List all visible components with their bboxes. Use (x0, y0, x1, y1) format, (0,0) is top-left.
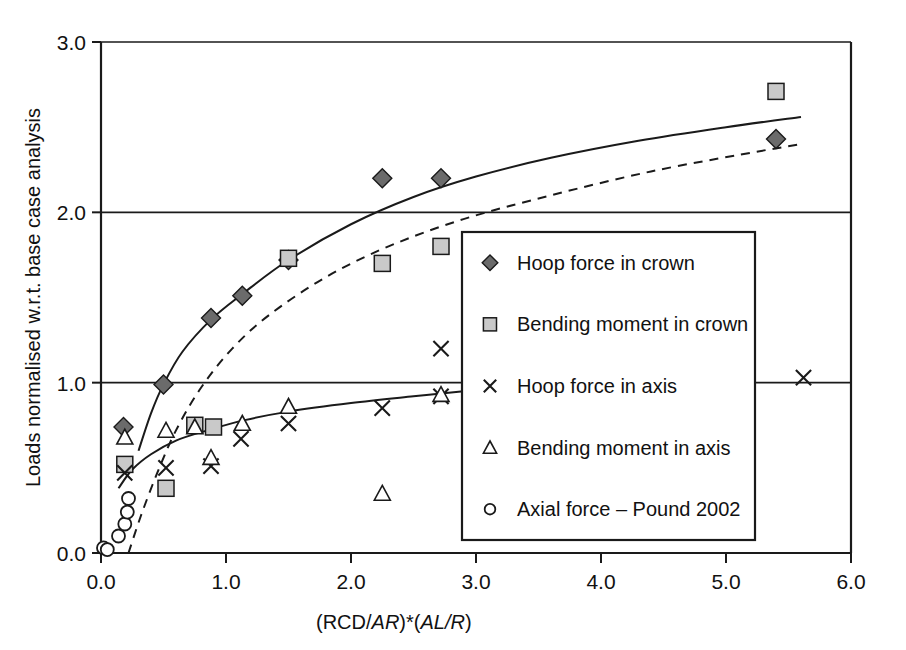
data-point-square (206, 419, 222, 435)
legend-label: Axial force – Pound 2002 (517, 498, 741, 520)
data-point-cross (233, 431, 248, 446)
y-tick-label: 2.0 (57, 201, 86, 224)
x-tick-labels: 0.01.02.03.04.05.06.0 (86, 570, 865, 593)
x-tick-label: 3.0 (461, 570, 490, 593)
data-point-diamond (202, 308, 221, 327)
data-point-circle (118, 518, 131, 531)
data-point-cross (375, 401, 390, 416)
x-tick-label: 1.0 (211, 570, 240, 593)
x-axis-title: (RCD/AR)*(AL/R) (316, 611, 472, 633)
legend-item[interactable]: Bending moment in crown (483, 313, 748, 335)
legend-marker-square (483, 318, 496, 331)
legend-item[interactable]: Axial force – Pound 2002 (485, 498, 741, 520)
data-point-triangle (281, 399, 297, 414)
legend-marker-circle (485, 504, 496, 515)
data-point-square (374, 255, 390, 271)
data-point-square (158, 480, 174, 496)
legend-item[interactable]: Bending moment in axis (483, 437, 730, 459)
x-tick-label: 4.0 (586, 570, 615, 593)
data-point-diamond (373, 169, 392, 188)
legend-label: Bending moment in axis (517, 437, 730, 459)
data-point-circle (121, 506, 134, 519)
data-point-square (433, 238, 449, 254)
x-tick-label: 6.0 (836, 570, 865, 593)
data-point-triangle (374, 485, 390, 500)
y-tick-label: 1.0 (57, 372, 86, 395)
x-tick-label: 0.0 (86, 570, 115, 593)
data-point-diamond (154, 375, 173, 394)
y-tick-label: 3.0 (57, 31, 86, 54)
series-circle (97, 492, 135, 556)
data-point-circle (101, 543, 114, 556)
data-point-cross (158, 460, 173, 475)
data-point-triangle (203, 450, 219, 465)
data-point-circle (122, 492, 135, 505)
legend-label: Hoop force in axis (517, 375, 677, 397)
x-tick-label: 5.0 (711, 570, 740, 593)
data-point-diamond (767, 130, 786, 149)
y-tick-label: 0.0 (57, 542, 86, 565)
legend-label: Hoop force in crown (517, 252, 695, 274)
x-tick-label: 2.0 (336, 570, 365, 593)
scatter-plot-canvas: 0.01.02.03.00.01.02.03.04.05.06.0Loads n… (0, 0, 906, 650)
y-tick-labels: 0.01.02.03.0 (57, 31, 86, 565)
chart-figure: 0.01.02.03.00.01.02.03.04.05.06.0Loads n… (0, 0, 906, 650)
data-point-circle (112, 530, 125, 543)
data-point-cross (281, 416, 296, 431)
y-axis-title: Loads normalised w.r.t. base case analys… (22, 108, 44, 487)
data-point-square (768, 83, 784, 99)
data-point-triangle (158, 422, 174, 437)
legend-label: Bending moment in crown (517, 313, 748, 335)
data-point-cross (433, 341, 448, 356)
axis-titles: Loads normalised w.r.t. base case analys… (22, 108, 472, 633)
data-point-square (281, 250, 297, 266)
chart-legend: Hoop force in crownBending moment in cro… (462, 232, 755, 540)
data-point-square (117, 456, 133, 472)
